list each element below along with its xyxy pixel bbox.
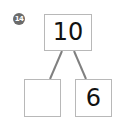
connector-left: [50, 51, 62, 79]
connector-right: [74, 51, 86, 79]
part-left-box[interactable]: [24, 79, 61, 117]
whole-box: 10: [44, 14, 92, 51]
part-right-box: 6: [75, 79, 112, 117]
